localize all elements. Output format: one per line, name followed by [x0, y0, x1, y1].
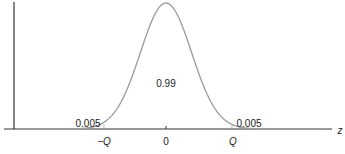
tick-q: Q — [229, 136, 237, 147]
normal-curve — [16, 3, 326, 129]
left-tail-label: 0.005 — [75, 118, 100, 129]
normal-distribution-chart: 0.99 0.005 0.005 −Q 0 Q z — [0, 0, 345, 154]
center-area-label: 0.99 — [156, 78, 176, 89]
tick-neg-q: −Q — [97, 136, 111, 147]
right-tail-label: 0.005 — [236, 118, 261, 129]
tick-zero: 0 — [163, 136, 169, 147]
z-axis-label: z — [337, 125, 343, 136]
